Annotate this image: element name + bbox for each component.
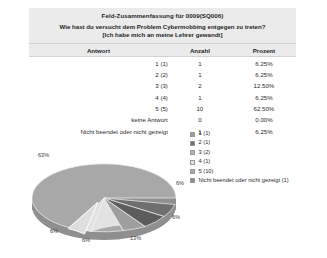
legend-label: 2 (1) bbox=[199, 139, 211, 146]
table-row: 3 (3) 2 12.50% bbox=[29, 80, 296, 91]
column-header-answer: Antwort bbox=[29, 44, 168, 57]
cell-answer: 2 (2) bbox=[29, 69, 168, 80]
column-header-percent: Prozent bbox=[232, 44, 296, 57]
chart-legend: 1 (1) 2 (1) 3 (2) 4 (1) 5 (10) Nicht bee… bbox=[190, 130, 315, 186]
cell-answer: 5 (5) bbox=[29, 103, 168, 114]
pie-label-bottom-mid: 6% bbox=[82, 237, 90, 243]
column-header-count: Anzahl bbox=[168, 44, 232, 57]
cell-percent: 62.50% bbox=[232, 103, 296, 114]
pie-label-bottom-left: 6% bbox=[50, 228, 58, 234]
pie-label-63: 63% bbox=[38, 152, 49, 158]
legend-item: 4 (1) bbox=[190, 158, 315, 165]
cell-count: 1 bbox=[168, 57, 232, 69]
table-row: 4 (4) 1 6.25% bbox=[29, 92, 296, 103]
legend-label: 3 (2) bbox=[199, 149, 211, 156]
cell-answer: keine Antwort bbox=[29, 114, 168, 125]
cell-percent: 0.00% bbox=[232, 114, 296, 125]
chart-area: 63% 6% 6% 13% 6% 6% 1 (1) 2 (1) 3 (2) 4 … bbox=[0, 128, 327, 258]
cell-count: 2 bbox=[168, 80, 232, 91]
cell-count: 1 bbox=[168, 69, 232, 80]
pie-chart: 63% 6% 6% 13% 6% 6% bbox=[24, 136, 190, 248]
legend-swatch-icon bbox=[190, 160, 195, 165]
question-text: Wie hast du versucht dem Problem Cybermo… bbox=[33, 23, 292, 39]
page-title: Feld-Zusammenfassung für 0009(SQ006) bbox=[33, 11, 292, 20]
table-row: 1 (1) 1 6.25% bbox=[29, 57, 296, 69]
summary-header: Feld-Zusammenfassung für 0009(SQ006) Wie… bbox=[29, 8, 296, 43]
cell-percent: 6.25% bbox=[232, 69, 296, 80]
pie-label-bottom-right: 13% bbox=[130, 235, 141, 241]
legend-swatch-icon bbox=[190, 132, 195, 137]
legend-label: 5 (10) bbox=[199, 168, 214, 175]
field-summary-panel: Feld-Zusammenfassung für 0009(SQ006) Wie… bbox=[29, 8, 296, 137]
cell-answer: 4 (4) bbox=[29, 92, 168, 103]
table-row: keine Antwort 0 0.00% bbox=[29, 114, 296, 125]
legend-swatch-icon bbox=[190, 150, 195, 155]
legend-item: Nicht beendet oder nicht gezeigt (1) bbox=[190, 177, 315, 184]
pie-label-right-bottom: 6% bbox=[172, 214, 180, 220]
legend-swatch-icon bbox=[190, 141, 195, 146]
cell-count: 10 bbox=[168, 103, 232, 114]
legend-item: 2 (1) bbox=[190, 139, 315, 146]
cell-percent: 6.25% bbox=[232, 92, 296, 103]
legend-label: 1 (1) bbox=[199, 130, 211, 137]
legend-item: 1 (1) bbox=[190, 130, 315, 137]
legend-label: Nicht beendet oder nicht gezeigt (1) bbox=[199, 177, 289, 184]
legend-item: 3 (2) bbox=[190, 149, 315, 156]
cell-count: 1 bbox=[168, 92, 232, 103]
statistics-table: Antwort Anzahl Prozent 1 (1) 1 6.25% 2 (… bbox=[29, 43, 296, 137]
question-main: Wie hast du versucht dem Problem Cybermo… bbox=[60, 23, 266, 30]
cell-percent: 6.25% bbox=[232, 57, 296, 69]
table-row: 5 (5) 10 62.50% bbox=[29, 103, 296, 114]
legend-swatch-icon bbox=[190, 169, 195, 174]
cell-count: 0 bbox=[168, 114, 232, 125]
cell-answer: 3 (3) bbox=[29, 80, 168, 91]
legend-label: 4 (1) bbox=[199, 158, 211, 165]
table-header-row: Antwort Anzahl Prozent bbox=[29, 44, 296, 57]
cell-answer: 1 (1) bbox=[29, 57, 168, 69]
legend-swatch-icon bbox=[190, 178, 195, 183]
pie-label-right-top: 6% bbox=[176, 180, 184, 186]
legend-item: 5 (10) bbox=[190, 168, 315, 175]
cell-percent: 12.50% bbox=[232, 80, 296, 91]
question-subtext: [Ich habe mich an meine Lehrer gewandt] bbox=[33, 31, 292, 39]
table-row: 2 (2) 1 6.25% bbox=[29, 69, 296, 80]
